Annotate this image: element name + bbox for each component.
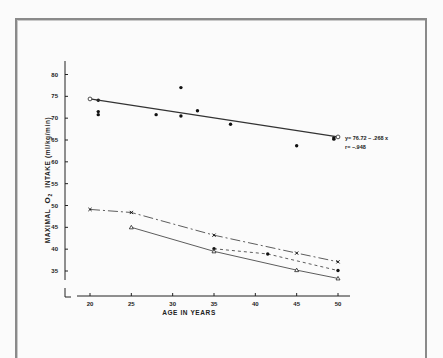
x-tick-label: 30 [169, 301, 176, 307]
data-point-dot [295, 144, 298, 147]
x-axis-title: AGE IN YEARS [162, 309, 216, 316]
data-point-triangle [295, 268, 299, 272]
y-tick-label: 70 [51, 115, 58, 121]
x-tick-label: 20 [87, 301, 94, 307]
series-4 [129, 225, 340, 280]
y-axis-label-o: O [43, 197, 52, 204]
y-tick-label: 65 [51, 137, 58, 143]
series-line [90, 99, 338, 137]
data-point-dot [97, 113, 100, 116]
data-point-dot [179, 114, 182, 117]
x-tick-label: 40 [252, 301, 259, 307]
x-tick-label: 45 [293, 301, 300, 307]
y-tick-label: 40 [51, 246, 58, 252]
y-tick-label: 50 [51, 203, 58, 209]
y-tick-label: 75 [51, 93, 58, 99]
y-axis-label-main: MAXIMAL [44, 209, 51, 243]
y-axis-label-sub: 2 [47, 193, 53, 196]
y-tick-label: 45 [51, 224, 58, 230]
y-axis-label-rest: INTAKE (ml/kg/min) [44, 117, 52, 188]
series-line [214, 249, 338, 271]
data-point-dot [266, 252, 269, 255]
x-ticks: 20253035404550 [87, 293, 342, 307]
series-0 [97, 86, 336, 147]
data-point-dot [154, 113, 157, 116]
y-tick-label: 60 [51, 159, 58, 165]
correlation-coefficient: r= −.948 [345, 144, 366, 150]
data-point-open-circle [336, 135, 340, 139]
data-point-triangle [212, 249, 216, 253]
x-axis-label: AGE IN YEARS [162, 309, 216, 316]
x-tick-label: 35 [211, 301, 218, 307]
data-point-dot [229, 123, 232, 126]
plot-area [88, 86, 340, 280]
regression-equation: y= 76.72 − .268 x [345, 135, 389, 141]
data-point-dot [179, 86, 182, 89]
data-point-dot [97, 110, 100, 113]
data-point-dot [196, 109, 199, 112]
data-point-triangle [129, 225, 133, 229]
series-1 [88, 97, 340, 139]
x-tick-label: 25 [128, 301, 135, 307]
y-tick-label: 35 [51, 268, 58, 274]
y-tick-label: 80 [51, 72, 58, 78]
y-tick-label: 55 [51, 181, 58, 187]
series-line [131, 227, 338, 278]
data-point-dot [336, 269, 339, 272]
regression-annotation: y= 76.72 − .268 x r= −.948 [345, 135, 389, 150]
series-3 [212, 247, 339, 272]
data-point-open-circle [88, 97, 92, 101]
x-tick-label: 50 [335, 301, 342, 307]
series-2 [88, 208, 339, 264]
data-point-triangle [336, 276, 340, 280]
